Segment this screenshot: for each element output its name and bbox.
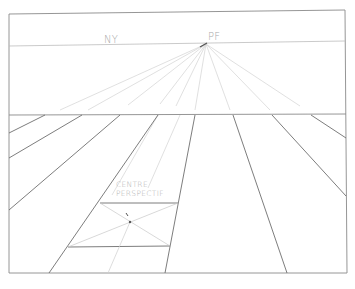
perspective-square	[68, 203, 178, 273]
perspective-drawing	[0, 0, 355, 289]
construction-rays	[60, 44, 300, 195]
ground-rays	[9, 115, 346, 273]
vanishing-point-label: PF	[208, 31, 220, 42]
centre-perspectif-label-line1: CENTRE	[116, 180, 148, 189]
horizon-line	[9, 41, 345, 46]
ground-line	[9, 114, 346, 115]
centre-point	[129, 221, 131, 223]
horizon-label: NY	[104, 34, 118, 45]
centre-perspectif-label-line2: PERSPECTIF	[116, 189, 164, 198]
